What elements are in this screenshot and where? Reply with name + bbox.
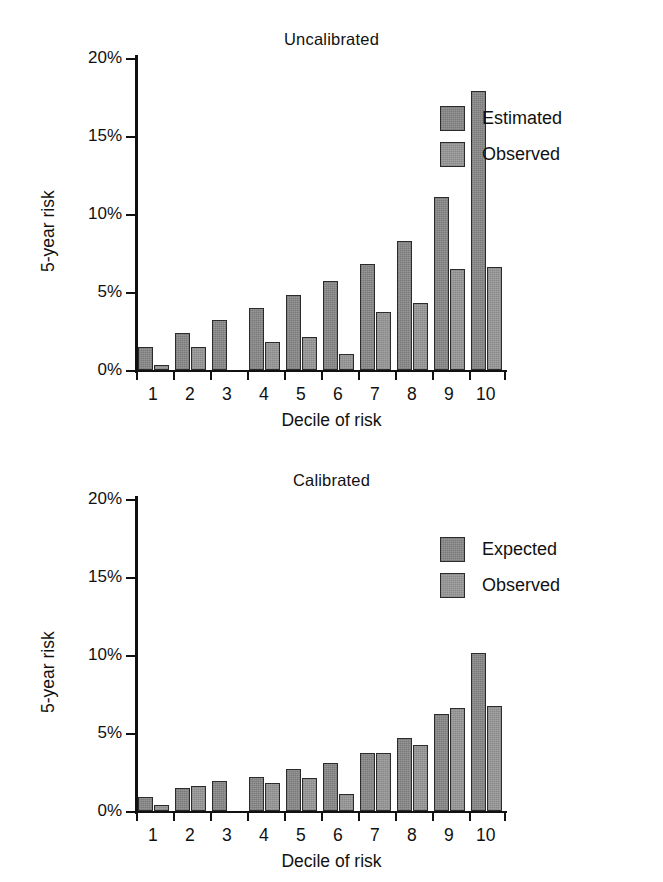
x-axis-tick <box>504 370 506 380</box>
y-axis-tick <box>126 499 135 501</box>
bar <box>397 738 413 811</box>
x-axis-tick <box>284 370 286 380</box>
bar <box>265 342 281 370</box>
bar <box>138 347 154 370</box>
x-axis-tick <box>432 370 434 380</box>
panel-calibrated: Calibrated 0%5%10%15%20%12345678910 Deci… <box>0 441 663 882</box>
bar <box>323 281 339 370</box>
x-axis-tick-label: 2 <box>185 384 195 405</box>
x-axis-tick <box>395 370 397 380</box>
bar <box>191 347 207 370</box>
x-axis-tick <box>358 811 360 821</box>
y-axis-tick-label: 5% <box>97 282 122 302</box>
legend-item: Estimated <box>440 105 562 131</box>
x-axis-tick-label: 4 <box>259 825 269 846</box>
bar <box>138 797 154 811</box>
y-axis-tick-label: 5% <box>97 723 122 743</box>
x-axis-tick <box>210 370 212 380</box>
legend-item: Expected <box>440 536 560 562</box>
legend-item: Observed <box>440 141 562 167</box>
bar <box>249 777 265 811</box>
y-axis-tick-label: 0% <box>97 360 122 380</box>
x-axis-tick <box>432 811 434 821</box>
y-axis-tick-label: 20% <box>88 489 122 509</box>
bar <box>323 763 339 811</box>
x-axis-tick <box>358 370 360 380</box>
x-axis-tick-label: 8 <box>407 384 417 405</box>
x-axis-tick <box>504 811 506 821</box>
bar <box>249 308 265 370</box>
legend-label: Observed <box>482 576 560 594</box>
legend-label: Estimated <box>482 109 562 127</box>
x-axis-tick <box>173 370 175 380</box>
bar <box>339 794 355 811</box>
bar <box>175 788 191 811</box>
bar <box>265 783 281 811</box>
x-axis-tick-label: 5 <box>296 825 306 846</box>
y-axis-tick <box>126 577 135 579</box>
y-axis-tick-label: 15% <box>88 567 122 587</box>
x-axis-title: Decile of risk <box>0 851 663 872</box>
bar <box>212 320 228 370</box>
x-axis-tick-label: 7 <box>370 825 380 846</box>
bar <box>191 786 207 811</box>
y-axis-tick <box>126 370 135 372</box>
bar <box>212 781 228 811</box>
x-axis-tick <box>395 811 397 821</box>
x-axis-tick-label: 6 <box>333 384 343 405</box>
y-axis-tick <box>126 214 135 216</box>
legend: Expected Observed <box>440 536 560 608</box>
x-axis-tick <box>210 811 212 821</box>
bar <box>450 269 466 370</box>
bar <box>487 267 503 370</box>
y-axis-title: 5-year risk <box>38 190 59 272</box>
x-axis-tick <box>247 811 249 821</box>
bar <box>450 708 466 811</box>
x-axis-tick <box>247 370 249 380</box>
x-axis-tick <box>321 370 323 380</box>
bar <box>434 197 450 370</box>
x-axis-tick-label: 9 <box>444 825 454 846</box>
bar <box>413 745 429 811</box>
y-axis-tick <box>126 655 135 657</box>
bar <box>154 805 170 811</box>
x-axis-tick <box>321 811 323 821</box>
x-axis-tick-label: 9 <box>444 384 454 405</box>
y-axis-tick <box>126 733 135 735</box>
bar <box>360 264 376 370</box>
bar <box>376 753 392 811</box>
bar <box>286 769 302 811</box>
x-axis-title: Decile of risk <box>0 410 663 431</box>
x-axis-tick-label: 7 <box>370 384 380 405</box>
x-axis-tick-label: 4 <box>259 384 269 405</box>
bar <box>471 653 487 811</box>
series-1-swatch-icon <box>440 142 465 167</box>
y-axis-tick-label: 15% <box>88 126 122 146</box>
y-axis-tick-label: 10% <box>88 645 122 665</box>
legend-item: Observed <box>440 572 560 598</box>
y-axis-tick <box>126 292 135 294</box>
x-axis-tick-label: 3 <box>222 384 232 405</box>
bar <box>397 241 413 370</box>
figure: Uncalibrated 0%5%10%15%20%12345678910 De… <box>0 0 663 882</box>
legend: Estimated Observed <box>440 105 562 177</box>
legend-label: Expected <box>482 540 557 558</box>
legend-label: Observed <box>482 145 560 163</box>
bar <box>413 303 429 370</box>
x-axis-tick <box>284 811 286 821</box>
bar <box>487 706 503 811</box>
y-axis-line <box>135 496 138 814</box>
y-axis-tick-label: 0% <box>97 801 122 821</box>
panel-title: Uncalibrated <box>0 30 663 49</box>
x-axis-tick-label: 8 <box>407 825 417 846</box>
x-axis-tick-label: 1 <box>148 825 158 846</box>
y-axis-tick <box>126 811 135 813</box>
bar <box>154 365 170 370</box>
y-axis-tick <box>126 136 135 138</box>
x-axis-tick <box>469 811 471 821</box>
x-axis-tick-label: 10 <box>476 825 495 846</box>
y-axis-line <box>135 55 138 373</box>
series-0-swatch-icon <box>440 106 465 131</box>
x-axis-tick-label: 6 <box>333 825 343 846</box>
x-axis-tick-label: 1 <box>148 384 158 405</box>
